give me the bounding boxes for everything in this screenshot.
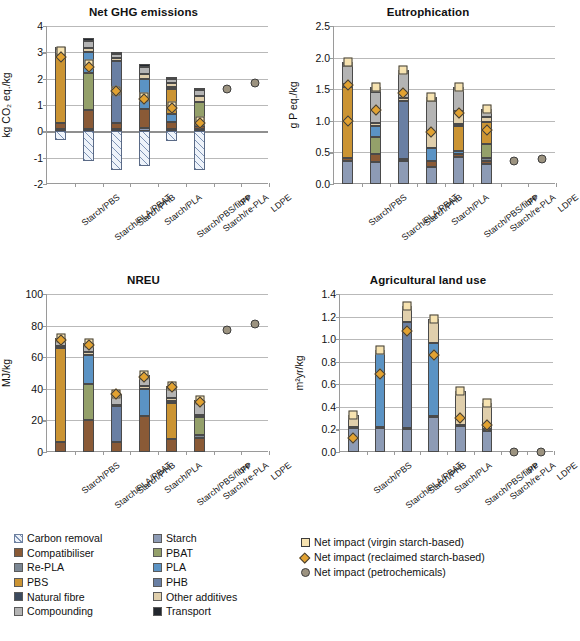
marker-virgin-starch-wrapper	[456, 387, 465, 396]
bar-segment	[139, 386, 150, 388]
x-tick-mark	[241, 451, 242, 455]
legend-marker-glyph	[300, 568, 310, 577]
marker-petrochemical-wrapper	[251, 78, 260, 87]
y-tick-label: 0.2	[321, 423, 336, 435]
x-tick-mark	[447, 451, 448, 455]
bar-segment	[481, 161, 492, 164]
bar-segment	[370, 137, 381, 155]
bar-segment	[453, 126, 464, 151]
y-tick-label: 1.4	[321, 288, 336, 300]
marker-reclaimed-starch-wrapper	[57, 53, 65, 61]
marker-reclaimed-starch-wrapper	[85, 341, 93, 349]
y-tick-label: 0.5	[315, 146, 330, 158]
y-axis-label-3: MJ/kg	[0, 359, 12, 387]
y-tick-label: 20	[31, 414, 43, 426]
marker-circle-icon	[301, 568, 310, 577]
marker-virgin-starch	[371, 83, 380, 92]
chart-title-2: Eutrophication	[287, 6, 569, 18]
legend-marker-item: Net impact (virgin starch-based)	[300, 536, 562, 548]
legend-label: Starch	[166, 532, 197, 544]
marker-petrochemical-wrapper	[509, 448, 518, 457]
marker-virgin-starch-wrapper	[482, 104, 491, 113]
x-tick-mark	[501, 183, 502, 187]
panel-net-ghg-emissions: Net GHG emissions -2-101234 kg CO₂ eq./k…	[0, 0, 287, 268]
bar-segment	[398, 98, 409, 101]
x-tick-mark	[390, 183, 391, 187]
gridline	[47, 294, 268, 295]
legend-item: PHB	[153, 576, 282, 588]
marker-reclaimed-starch	[481, 419, 492, 430]
bar-segment	[455, 426, 466, 452]
bar-segment	[481, 144, 492, 158]
x-tick-mark	[241, 183, 242, 187]
bar-segment	[83, 420, 94, 452]
bar-segment	[83, 110, 94, 129]
marker-reclaimed-starch-wrapper	[455, 109, 463, 117]
legend-marker-glyph	[300, 538, 310, 547]
x-tick-mark	[158, 183, 159, 187]
y-tick-mark	[43, 52, 47, 53]
chart-title-1: Net GHG emissions	[0, 6, 287, 18]
marker-petrochemical	[251, 320, 260, 329]
bar-segment	[139, 416, 150, 452]
marker-virgin-starch	[349, 410, 358, 419]
x-tick-mark	[417, 183, 418, 187]
marker-petrochemical	[509, 448, 518, 457]
marker-reclaimed-starch-wrapper	[372, 106, 380, 114]
x-tick-mark	[158, 451, 159, 455]
x-tick-mark	[527, 451, 528, 455]
marker-virgin-starch	[402, 302, 411, 311]
bar-segment	[453, 151, 464, 154]
bar-segment	[111, 405, 122, 407]
x-tick-mark	[474, 451, 475, 455]
bar-segment	[375, 427, 386, 429]
bar-segment	[111, 58, 122, 61]
legend-label: Compounding	[27, 605, 93, 617]
marker-petrochemical	[510, 156, 519, 165]
bar-segment	[139, 389, 150, 416]
marker-reclaimed-starch	[55, 334, 66, 345]
legend-swatch	[14, 578, 23, 587]
bar-segment	[55, 348, 66, 442]
bar-segment	[453, 124, 464, 126]
x-axis-label: Starch/PBS	[372, 460, 414, 496]
marker-petrochemical-wrapper	[538, 155, 547, 164]
marker-petrochemical	[251, 78, 260, 87]
marker-virgin-starch	[456, 387, 465, 396]
y-tick-label: 1.0	[315, 115, 330, 127]
x-tick-mark	[130, 183, 131, 187]
plot-area-3: 020406080100	[46, 294, 268, 452]
bar-segment	[402, 428, 413, 430]
y-tick-label: 40	[31, 383, 43, 395]
x-tick-mark	[445, 183, 446, 187]
marker-reclaimed-starch-wrapper	[344, 81, 352, 89]
y-tick-mark	[43, 131, 47, 132]
marker-virgin-starch-wrapper	[483, 399, 492, 408]
y-tick-mark	[330, 58, 334, 59]
marker-reclaimed-starch-wrapper	[168, 383, 176, 391]
bar-segment	[139, 64, 150, 67]
y-tick-mark	[43, 389, 47, 390]
legend-item: Other additives	[153, 591, 282, 603]
x-tick-mark	[362, 183, 363, 187]
marker-reclaimed-starch	[401, 326, 412, 337]
bar-segment	[83, 41, 94, 48]
y-axis-label-2: g P eq./kg	[287, 81, 299, 128]
marker-reclaimed-starch-wrapper	[376, 370, 384, 378]
marker-reclaimed-starch-wrapper	[168, 104, 176, 112]
legend-swatch	[153, 607, 162, 616]
marker-reclaimed-starch-wrapper	[344, 117, 352, 125]
legend-swatch	[153, 534, 162, 543]
marker-reclaimed-starch	[342, 79, 353, 90]
bar-segment	[194, 90, 205, 97]
y-axis-label-4: m²yr/kg	[293, 356, 305, 391]
chart-title-3: NREU	[0, 274, 287, 286]
x-tick-mark	[103, 183, 104, 187]
marker-reclaimed-starch	[138, 94, 149, 105]
y-tick-mark	[330, 89, 334, 90]
bar-segment	[453, 154, 464, 157]
marker-reclaimed-starch-wrapper	[57, 336, 65, 344]
y-tick-label: 2.0	[315, 52, 330, 64]
plot-area-4: 0.00.20.40.60.81.01.21.4	[339, 294, 553, 452]
bar-segment	[428, 416, 439, 418]
